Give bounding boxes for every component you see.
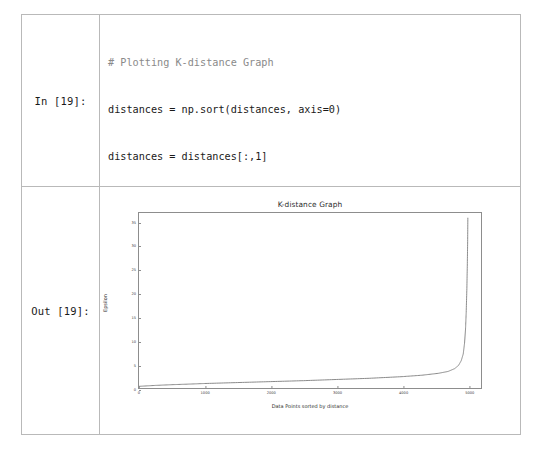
- chart-xlabel: Data Points sorted by distance: [138, 403, 482, 409]
- chart-ytick-label: 30: [131, 244, 139, 248]
- matplotlib-figure: K-distance Graph Epsilon 051015202530350…: [100, 187, 520, 434]
- code-line-3: distances = distances[:,1]: [108, 149, 520, 165]
- code-line-2: distances = np.sort(distances, axis=0): [108, 102, 520, 118]
- output-prompt-label: Out [19]:: [22, 187, 100, 434]
- chart-ytick-label: 25: [131, 268, 139, 272]
- code-block[interactable]: # Plotting K-distance Graph distances = …: [100, 15, 520, 186]
- jupyter-notebook-cells: In [19]: # Plotting K-distance Graph dis…: [21, 14, 521, 435]
- chart-xtick-label: 3000: [333, 388, 342, 395]
- chart-ytick-label: 5: [134, 364, 139, 368]
- code-line-3-text: distances = distances[:,1]: [108, 151, 267, 162]
- chart-xtick-label: 0: [138, 388, 140, 395]
- code-line-2-text: distances = np.sort(distances, axis=0): [108, 104, 341, 115]
- chart-plot-area: 05101520253035010002000300040005000: [138, 212, 482, 389]
- chart-ytick-label: 20: [131, 292, 139, 296]
- chart-xtick-label: 4000: [399, 388, 408, 395]
- chart-ytick-label: 10: [131, 340, 139, 344]
- chart-xtick-label: 2000: [267, 388, 276, 395]
- code-line-1-text: # Plotting K-distance Graph: [108, 57, 274, 68]
- chart-xtick-label: 5000: [465, 388, 474, 395]
- output-cell: Out [19]: K-distance Graph Epsilon 05101…: [22, 187, 520, 434]
- code-editor-area[interactable]: # Plotting K-distance Graph distances = …: [100, 15, 520, 186]
- chart-ytick-label: 15: [131, 316, 139, 320]
- chart-line-series: [139, 213, 481, 388]
- chart-xtick-label: 1000: [201, 388, 210, 395]
- code-line-1: # Plotting K-distance Graph: [108, 55, 520, 71]
- figure-output-area: K-distance Graph Epsilon 051015202530350…: [100, 187, 520, 434]
- input-prompt-label: In [19]:: [22, 15, 100, 186]
- chart-title: K-distance Graph: [100, 200, 520, 209]
- chart-ytick-label: 35: [131, 221, 139, 225]
- input-cell[interactable]: In [19]: # Plotting K-distance Graph dis…: [22, 15, 520, 187]
- chart-ylabel: Epsilon: [102, 294, 108, 312]
